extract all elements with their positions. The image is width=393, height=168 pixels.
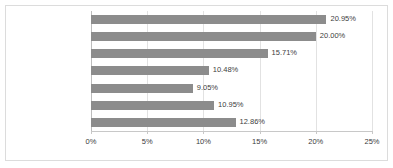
x-tick-mark (260, 131, 261, 134)
bar[interactable] (91, 66, 209, 75)
bar-value-label: 20.95% (330, 13, 355, 25)
bar[interactable] (91, 32, 316, 41)
bar-row: 田间青草香15.71% (91, 45, 372, 62)
bar-row: 炊烟的气味10.95% (91, 97, 372, 114)
bar[interactable] (91, 101, 214, 110)
bar-value-label: 10.95% (218, 99, 243, 111)
x-tick-mark (316, 131, 317, 134)
bar-row: 其他12.86% (91, 114, 372, 131)
chart-container: 梯田花香20.95%商铺中的皇菊茶香20.00%田间青草香15.71%泥土味10… (0, 0, 393, 168)
x-tick-label: 25% (352, 136, 392, 148)
bar-row: 饭菜香9.05% (91, 80, 372, 97)
x-tick-mark (203, 131, 204, 134)
bar[interactable] (91, 84, 193, 93)
bar-value-label: 10.48% (213, 64, 238, 76)
bar-value-label: 12.86% (240, 116, 265, 128)
x-tick-label: 20% (296, 136, 336, 148)
bar-value-label: 9.05% (197, 82, 218, 94)
bar[interactable] (91, 15, 326, 24)
bar-row: 梯田花香20.95% (91, 11, 372, 28)
x-tick-label: 5% (127, 136, 167, 148)
x-tick-mark (147, 131, 148, 134)
bar[interactable] (91, 118, 236, 127)
plot-area: 梯田花香20.95%商铺中的皇菊茶香20.00%田间青草香15.71%泥土味10… (91, 11, 372, 131)
bar-row: 泥土味10.48% (91, 62, 372, 79)
bar-value-label: 15.71% (272, 47, 297, 59)
x-tick-label: 0% (71, 136, 111, 148)
x-tick-mark (91, 131, 92, 134)
gridline (372, 11, 373, 131)
x-axis-line (91, 131, 372, 132)
bar[interactable] (91, 49, 268, 58)
bar-row: 商铺中的皇菊茶香20.00% (91, 28, 372, 45)
x-tick-label: 10% (183, 136, 223, 148)
plot-wrapper: 梯田花香20.95%商铺中的皇菊茶香20.00%田间青草香15.71%泥土味10… (0, 0, 393, 168)
x-tick-mark (372, 131, 373, 134)
x-tick-label: 15% (240, 136, 280, 148)
bar-value-label: 20.00% (320, 30, 345, 42)
